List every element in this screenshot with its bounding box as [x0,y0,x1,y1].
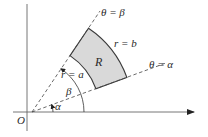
angle-alpha-arc [52,105,53,112]
label-region: R [94,55,103,69]
label-inner-arc: r = a [61,68,84,80]
label-origin: O [17,114,25,126]
label-angle-beta: β [65,85,72,97]
label-theta-alpha: θ = α [149,58,173,70]
label-outer-arc: r = b [114,37,137,49]
label-theta-beta: θ = β [101,6,125,18]
polar-region-diagram: θ = β θ = α r = b r = a R β α O [0,0,208,137]
label-angle-alpha: α [55,100,61,112]
